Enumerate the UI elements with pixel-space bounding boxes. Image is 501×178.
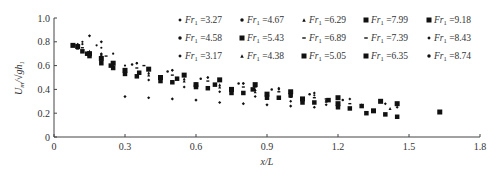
legend-item: Fr1 =5.05: [302, 51, 347, 62]
y-tick-label: 1.0: [38, 13, 51, 24]
square-marker: [277, 95, 282, 100]
triangle-marker: [183, 77, 186, 80]
diamond-marker: [242, 82, 245, 85]
square-marker: [437, 110, 442, 115]
legend-label: Fr1 =3.17: [184, 51, 222, 62]
square-marker: [137, 70, 142, 75]
square-marker: [175, 76, 180, 81]
dash-marker: [364, 37, 368, 38]
square-marker: [378, 99, 383, 104]
series-fr1-3-27: [88, 34, 316, 109]
dash-marker: [206, 80, 209, 81]
legend-item: Fr1 =6.35: [364, 51, 409, 62]
diamond-marker: [171, 69, 174, 72]
diamond-marker: [325, 103, 328, 106]
dash-marker: [81, 47, 84, 48]
square-marker: [336, 95, 341, 100]
square-marker: [364, 18, 369, 23]
legend-item: Fr1 =6.29: [302, 15, 346, 26]
diamond-marker: [218, 101, 221, 104]
dot-marker: [237, 82, 240, 85]
dash-marker: [302, 37, 306, 38]
diamond-marker: [147, 96, 150, 99]
square-marker: [109, 63, 114, 68]
legend-item: Fr1 =5.43: [240, 33, 285, 44]
dot-marker: [313, 94, 315, 96]
square-marker: [364, 111, 369, 116]
legend-label: Fr1 =4.58: [184, 33, 222, 44]
legend-item: Fr1 =4.67: [240, 15, 284, 26]
x-tick-label: 0: [52, 141, 57, 152]
diamond-marker: [348, 97, 351, 100]
legend-label: Fr1 =8.43: [433, 33, 471, 44]
diamond-marker: [218, 90, 221, 93]
square-marker: [99, 61, 104, 66]
dot-marker: [96, 44, 98, 46]
series-fr1-3-17: [100, 57, 328, 106]
square-marker: [348, 106, 353, 111]
diamond-marker: [313, 91, 316, 94]
square-marker: [371, 108, 376, 113]
square-marker: [288, 93, 293, 98]
dot-marker: [308, 93, 311, 96]
diamond-marker: [289, 104, 292, 107]
dot-marker: [81, 43, 83, 45]
legend-label: Fr1 =7.99: [370, 15, 408, 26]
dash-marker: [135, 67, 138, 68]
diamond-marker: [100, 40, 103, 43]
legend-label: Fr1 =5.43: [246, 33, 284, 44]
square-marker: [383, 112, 388, 117]
dot-marker: [166, 70, 169, 73]
legend-label: Fr1 =6.29: [308, 15, 346, 26]
legend-item: Fr1 =3.17: [178, 51, 222, 62]
dash-marker: [183, 73, 186, 74]
legend: Fr1 =3.27Fr1 =4.67Fr1 =6.29Fr1 =7.99Fr1 …: [178, 15, 471, 62]
legend-label: Fr1 =5.05: [308, 51, 346, 62]
dot-marker: [76, 45, 79, 48]
diamond-marker: [206, 76, 209, 79]
square-marker: [229, 91, 234, 96]
y-tick-label: 0: [45, 132, 50, 143]
y-tick-label: 0.8: [38, 36, 51, 47]
diamond-marker: [178, 18, 182, 22]
legend-item: Fr1 =3.27: [178, 15, 222, 26]
square-marker: [158, 79, 163, 84]
diamond-marker: [384, 102, 387, 105]
square-marker: [312, 100, 317, 105]
diamond-marker: [123, 95, 126, 98]
dot-marker: [81, 41, 83, 43]
square-marker: [80, 49, 85, 54]
diamond-marker: [88, 34, 91, 37]
series-fr1-6-35: [85, 51, 400, 119]
legend-item: Fr1 =9.18: [427, 15, 472, 26]
svg-text:Um/√gh1: Um/√gh1: [13, 61, 26, 95]
dot-marker: [427, 54, 431, 58]
diamond-marker: [254, 95, 257, 98]
square-marker: [336, 105, 341, 110]
dot-marker: [112, 53, 114, 55]
diamond-marker: [313, 106, 316, 109]
dash-marker: [277, 91, 280, 92]
x-tick-label: 1.2: [332, 141, 345, 152]
legend-item: Fr1 =4.38: [240, 51, 284, 62]
diamond-marker: [171, 97, 174, 100]
diamond-marker: [396, 106, 399, 109]
square-marker: [265, 95, 270, 100]
svg-text:x/L: x/L: [260, 156, 274, 167]
square-marker: [206, 86, 211, 91]
legend-label: Fr1 =6.89: [308, 33, 346, 44]
dot-marker: [131, 63, 134, 66]
legend-item: Fr1 =8.43: [427, 33, 471, 44]
x-tick-label: 1.5: [403, 141, 416, 152]
data-points: [70, 34, 442, 119]
x-tick-label: 0.9: [261, 141, 274, 152]
square-marker: [300, 100, 305, 105]
square-marker: [364, 54, 369, 59]
y-tick-label: 0.6: [38, 60, 51, 71]
diamond-marker: [427, 36, 431, 40]
legend-label: Fr1 =4.38: [246, 51, 284, 62]
dot-marker: [178, 36, 182, 40]
dash-marker: [76, 48, 79, 49]
dot-marker: [100, 54, 103, 57]
square-marker: [240, 36, 245, 41]
